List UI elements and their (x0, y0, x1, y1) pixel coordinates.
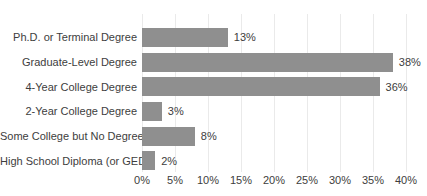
category-label: High School Diploma (or GED) (0, 155, 142, 167)
x-axis: 0%5%10%15%20%25%30%35%40% (142, 172, 407, 190)
x-tick-label: 5% (167, 174, 183, 186)
bar-track: 2% (142, 151, 427, 170)
x-tick-label: 20% (263, 174, 285, 186)
value-label: 13% (234, 31, 256, 43)
x-tick-label: 15% (230, 174, 252, 186)
bar-rows: Ph.D. or Terminal Degree13%Graduate-Leve… (0, 25, 427, 173)
x-tick-label: 10% (197, 174, 219, 186)
bar-row: 4-Year College Degree36% (0, 74, 427, 99)
category-label: Graduate-Level Degree (0, 56, 142, 68)
x-tick-label: 30% (329, 174, 351, 186)
x-tick-label: 35% (362, 174, 384, 186)
value-label: 2% (161, 155, 177, 167)
bar (142, 151, 155, 170)
bar-chart: Ph.D. or Terminal Degree13%Graduate-Leve… (0, 0, 427, 196)
x-tick-label: 25% (296, 174, 318, 186)
value-label: 8% (201, 130, 217, 142)
bar-row: Graduate-Level Degree38% (0, 50, 427, 75)
value-label: 36% (386, 81, 408, 93)
bar (142, 77, 380, 96)
category-label: Some College but No Degree (0, 130, 142, 142)
value-label: 38% (399, 56, 421, 68)
bar (142, 53, 393, 72)
bar-row: Ph.D. or Terminal Degree13% (0, 25, 427, 50)
bar-row: High School Diploma (or GED)2% (0, 148, 427, 173)
bar (142, 127, 195, 146)
value-label: 3% (168, 105, 184, 117)
bar-row: 2-Year College Degree3% (0, 99, 427, 124)
bar (142, 28, 228, 47)
bar-row: Some College but No Degree8% (0, 124, 427, 149)
bar-track: 36% (142, 77, 427, 96)
category-label: 2-Year College Degree (0, 105, 142, 117)
x-tick-label: 40% (395, 174, 417, 186)
bar-track: 3% (142, 102, 427, 121)
category-label: 4-Year College Degree (0, 81, 142, 93)
bar (142, 102, 162, 121)
bar-track: 8% (142, 127, 427, 146)
bar-track: 38% (142, 53, 427, 72)
bar-track: 13% (142, 28, 427, 47)
category-label: Ph.D. or Terminal Degree (0, 31, 142, 43)
x-tick-label: 0% (134, 174, 150, 186)
